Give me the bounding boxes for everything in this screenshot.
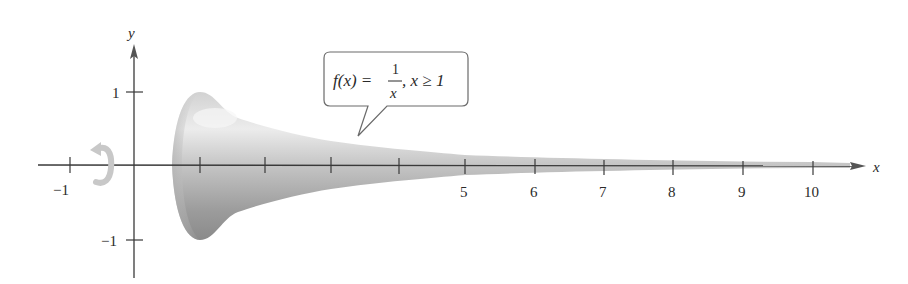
x-tick-label-9: 9 [738,184,746,200]
x-tick-label-5: 5 [460,184,468,200]
y-tick-label-1: 1 [112,85,120,101]
x-tick-label-8: 8 [668,184,676,200]
x-tick-label-7: 7 [599,184,607,200]
x-tick-label-6: 6 [530,184,538,200]
x-tick-label-10: 10 [804,184,819,200]
y-tick-label-neg1: −1 [101,233,117,249]
callout-condition: , x ≥ 1 [402,71,444,90]
x-tick-label-neg1: −1 [53,182,69,198]
y-axis-label: y [126,25,135,41]
callout-function-name: f(x) = [333,71,372,90]
callout-numerator: 1 [392,62,399,77]
gabriels-horn-figure: x y −1 5 6 7 8 9 10 1 −1 f(x) = [0,0,908,284]
x-axis-label: x [872,159,880,175]
rotate-arrow-icon [90,142,111,183]
y-axis [130,44,138,278]
callout-denominator: x [389,85,397,101]
